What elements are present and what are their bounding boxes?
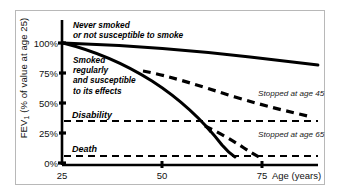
annotation-stopped-at-65: Stopped at age 65 [258, 130, 324, 139]
annotation-smoked-line2: regularly [73, 65, 136, 75]
annotation-smoked-regularly: Smoked regularly and susceptible to its … [73, 55, 136, 96]
annotation-never-smoked: Never smoked or not susceptible to smoke [73, 20, 183, 40]
annotation-smoked-line4: to its effects [73, 86, 136, 96]
annotation-stopped-at-45: Stopped at age 45 [258, 89, 324, 98]
curve-stopped-at-65 [205, 126, 259, 157]
fletcher-peto-chart: FEV1 (% of value at age 25) 100% 75% 50%… [0, 0, 344, 194]
annotation-never-smoked-line1: Never smoked [73, 20, 183, 30]
label-disability: Disability [72, 110, 112, 120]
label-death: Death [72, 144, 97, 154]
annotation-smoked-line1: Smoked [73, 55, 136, 65]
annotation-never-smoked-line2: or not susceptible to smoke [73, 30, 183, 40]
annotation-smoked-line3: and susceptible [73, 75, 136, 85]
